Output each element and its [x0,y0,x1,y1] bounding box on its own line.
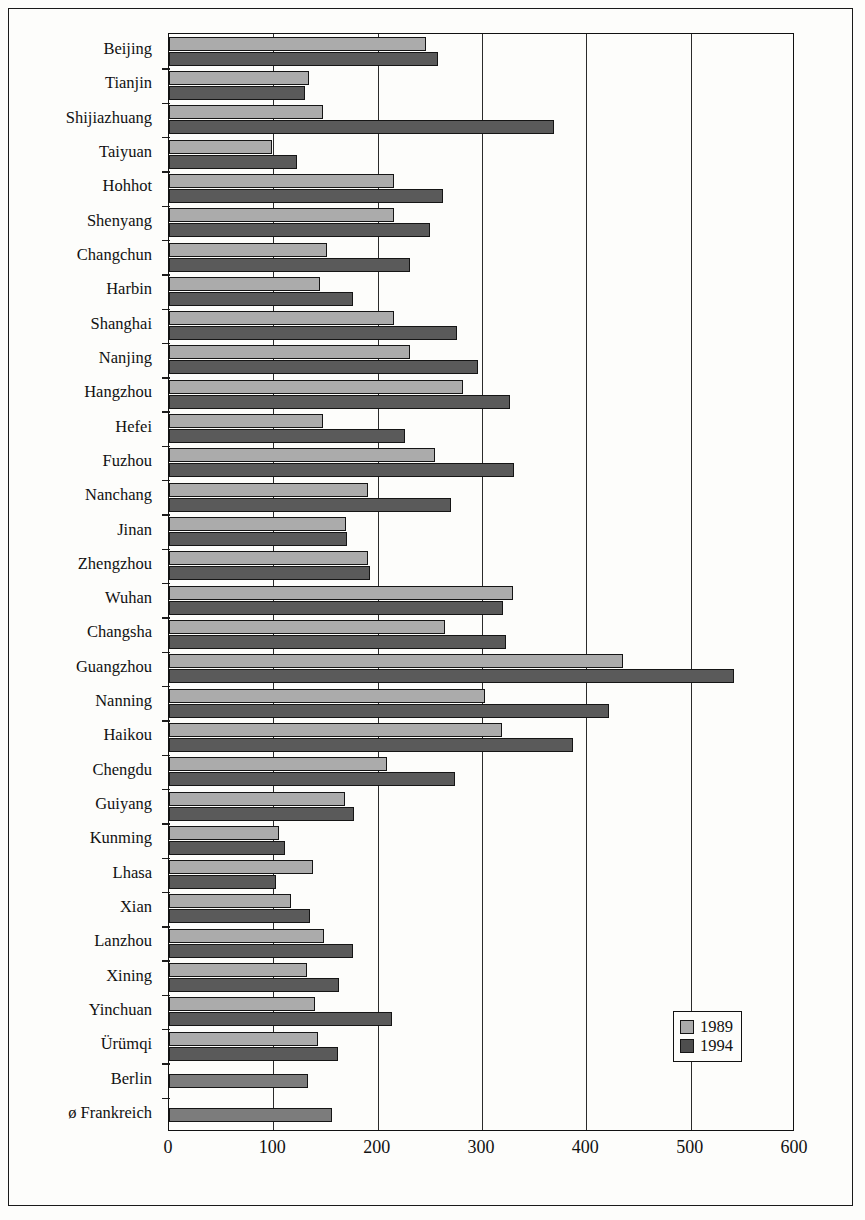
category-tick [162,549,170,550]
bar-1994-hangzhou [169,395,510,409]
bar-row [169,755,793,789]
category-label-haikou: Haikou [103,727,152,744]
bar-1989-nanning [169,689,485,703]
category-label-berlin: Berlin [111,1071,152,1088]
category-tick [162,240,170,241]
bar-1989-nanchang [169,483,368,497]
category-label--r-mqi: Ürümqi [101,1036,152,1053]
bar-row [169,137,793,171]
category-tick [162,1029,170,1030]
category-label-fuzhou: Fuzhou [103,453,153,470]
category-tick [162,171,170,172]
category-tick [162,309,170,310]
bar-1989-fuzhou [169,448,435,462]
bar-single-berlin [169,1074,308,1088]
bar-row [169,171,793,205]
bar-row [169,617,793,651]
bar-1989-chengdu [169,757,387,771]
category-tick [162,68,170,69]
bar-1994-wuhan [169,601,503,615]
bar-row [169,240,793,274]
bar-row [169,960,793,994]
bar-1989-changchun [169,243,327,257]
category-tick [162,377,170,378]
bar-1989-kunming [169,826,279,840]
bar-1989-xining [169,963,307,977]
category-label-hangzhou: Hangzhou [84,384,152,401]
bar-row [169,926,793,960]
category-label--frankreich: ø Frankreich [68,1105,152,1122]
bar-1994-zhengzhou [169,566,370,580]
category-label-shenyang: Shenyang [87,213,152,230]
category-label-lhasa: Lhasa [113,865,152,882]
category-tick [162,995,170,996]
bar-1994-hohhot [169,189,443,203]
bar-row [169,720,793,754]
bar-row [169,514,793,548]
category-label-nanning: Nanning [95,693,152,710]
bar-1994-xian [169,909,310,923]
bar-1994-guangzhou [169,669,734,683]
category-label-zhengzhou: Zhengzhou [78,556,152,573]
bar-1989-haikou [169,723,502,737]
category-tick [162,926,170,927]
category-tick [162,617,170,618]
bar-row [169,343,793,377]
bar-1989-lanzhou [169,929,324,943]
bar-1989-beijing [169,37,426,51]
bar-1989-taiyuan [169,140,272,154]
category-tick [162,343,170,344]
category-tick [162,1098,170,1099]
bar-row [169,549,793,583]
bar-row [169,1098,793,1132]
category-label-xian: Xian [120,899,152,916]
bar-1994-lanzhou [169,944,353,958]
category-label-shijiazhuang: Shijiazhuang [66,110,152,127]
bar-1989-lhasa [169,860,313,874]
category-label-taiyuan: Taiyuan [99,144,152,161]
bar-1989-yinchuan [169,997,315,1011]
category-tick [162,789,170,790]
category-label-changchun: Changchun [77,247,152,264]
bar-row [169,583,793,617]
category-tick [162,858,170,859]
bar-row [169,34,793,68]
plot-area [168,33,794,1131]
bar-chart: BeijingTianjinShijiazhuangTaiyuanHohhotS… [9,9,854,1207]
bar-1989-hefei [169,414,323,428]
legend-label-1989: 1989 [700,1019,733,1036]
bar-row [169,480,793,514]
category-label-kunming: Kunming [90,830,152,847]
bar-1989-tianjin [169,71,309,85]
legend-item-1989: 1989 [680,1019,733,1036]
bar-row [169,652,793,686]
x-tick-label-400: 400 [572,1137,599,1158]
x-tick-label-300: 300 [468,1137,495,1158]
bar-row [169,274,793,308]
legend-item-1994: 1994 [680,1038,733,1055]
bar-1989-guiyang [169,792,345,806]
category-label-lanzhou: Lanzhou [94,933,152,950]
category-tick [162,892,170,893]
category-tick [162,1063,170,1064]
bar-1989-shanghai [169,311,394,325]
category-label-xining: Xining [106,968,152,985]
bar-1989-harbin [169,277,320,291]
bar-1994-changsha [169,635,506,649]
category-tick [162,103,170,104]
bar-1989-nanjing [169,345,410,359]
bar-1994-shanghai [169,326,457,340]
legend-label-1994: 1994 [700,1038,733,1055]
bar-1989-jinan [169,517,346,531]
x-tick-label-0: 0 [164,1137,173,1158]
bar-1994-taiyuan [169,155,297,169]
bar-1994-kunming [169,841,285,855]
category-label-nanjing: Nanjing [99,350,152,367]
bar-1994-nanchang [169,498,451,512]
bar-rows [169,34,793,1130]
bar-1989-hohhot [169,174,394,188]
bar-1994-nanjing [169,360,478,374]
chart-page: BeijingTianjinShijiazhuangTaiyuanHohhotS… [0,0,865,1220]
bar-row [169,103,793,137]
bar-1994--r-mqi [169,1047,338,1061]
